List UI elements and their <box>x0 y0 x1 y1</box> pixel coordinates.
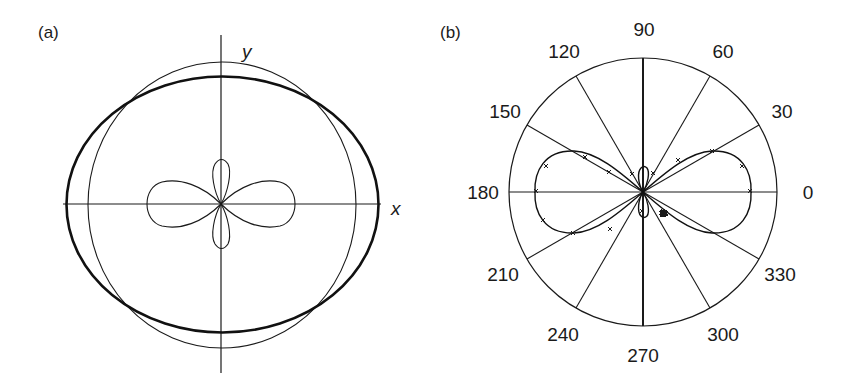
tick-0: 0 <box>803 182 814 203</box>
tick-210: 210 <box>487 264 519 285</box>
x-axis-label: x <box>390 198 402 219</box>
panel-a-label: (a) <box>38 23 59 42</box>
panel-b-label: (b) <box>440 23 461 42</box>
figure: (a) x y (b) <box>0 0 841 388</box>
tick-120: 120 <box>548 41 580 62</box>
panel-b: (b) 0 30 60 90 120 150 180 210 240 270 3… <box>440 19 813 366</box>
tick-180: 180 <box>467 182 499 203</box>
tick-60: 60 <box>712 41 733 62</box>
panel-a: (a) x y <box>38 23 402 373</box>
tick-90: 90 <box>633 19 654 40</box>
tick-240: 240 <box>547 324 579 345</box>
y-axis-label: y <box>240 41 253 62</box>
tick-150: 150 <box>489 101 521 122</box>
tick-300: 300 <box>707 324 739 345</box>
tick-270: 270 <box>627 345 659 366</box>
tick-330: 330 <box>764 264 796 285</box>
tick-30: 30 <box>771 101 792 122</box>
